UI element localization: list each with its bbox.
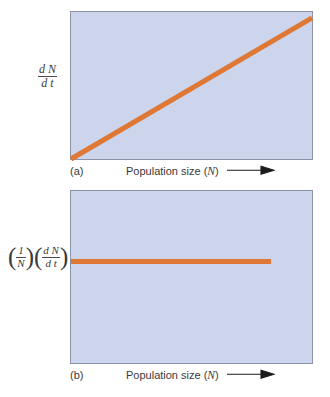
panel-a-letter: (a): [70, 165, 126, 177]
figure-population-growth: d N d t (a) Population size (N) ( 1 N )(…: [0, 0, 330, 397]
panel-b-letter: (b): [70, 369, 126, 381]
panel-a-x-axis-label: Population size (N): [126, 165, 219, 177]
panel-b-x-axis-label: Population size (N): [126, 369, 219, 381]
panel-b-caption-row: (b) Population size (N): [70, 367, 330, 383]
x-axis-label-variable: N: [207, 369, 215, 381]
panel-b-plot-area: [71, 191, 312, 363]
right-arrow-icon: [227, 162, 275, 180]
fraction-denominator: N: [16, 258, 25, 270]
right-arrow-icon: [227, 366, 275, 384]
panel-a-y-axis-label: d N d t: [38, 63, 57, 89]
close-paren-icon-2: ): [60, 246, 68, 268]
fraction-denominator: d t: [42, 258, 60, 270]
panel-a-caption-row: (a) Population size (N): [70, 163, 330, 179]
fraction-numerator: d N: [42, 245, 60, 258]
fraction-denominator: d t: [38, 77, 57, 90]
panel-b-y-axis-label: ( 1 N )( d N d t ): [8, 245, 68, 269]
close-paren-icon: ): [26, 246, 34, 268]
x-axis-label-close: ): [215, 165, 219, 177]
fraction-one-over-n: 1 N: [16, 245, 25, 269]
open-paren-icon: (: [8, 246, 16, 268]
fraction-dn-dt: d N d t: [42, 245, 60, 269]
x-axis-label-variable: N: [207, 165, 215, 177]
panel-a-plot-area: [71, 12, 312, 159]
x-axis-label-text: Population size (: [126, 165, 207, 177]
x-axis-label-close: ): [215, 369, 219, 381]
fraction-numerator: d N: [38, 63, 57, 77]
exponential-growth-line: [71, 18, 312, 159]
open-paren-icon-2: (: [34, 246, 42, 268]
fraction-dn-dt: d N d t: [38, 63, 57, 89]
x-axis-label-text: Population size (: [126, 369, 207, 381]
plot-panel-b: [70, 190, 313, 364]
fraction-numerator: 1: [16, 245, 25, 258]
plot-panel-a: [70, 11, 313, 160]
